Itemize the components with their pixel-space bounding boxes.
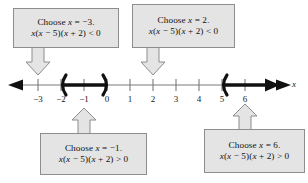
tick-label-3: 3 bbox=[168, 94, 184, 104]
tick-label-0: 0 bbox=[99, 94, 115, 104]
callout-choose-line: Choose x = 2. bbox=[158, 15, 210, 27]
sign-chart-figure: −3 −2 −1 0 1 2 3 4 5 6 x Choose x = −3. … bbox=[0, 0, 308, 183]
callout-test-line: x(x − 5)(x + 2) > 0 bbox=[220, 151, 290, 163]
tick-label-neg1: −1 bbox=[76, 94, 92, 104]
interval-5-to-infinity bbox=[223, 75, 280, 95]
tick-label-neg3: −3 bbox=[30, 94, 46, 104]
tick-label-6: 6 bbox=[237, 94, 253, 104]
axis-arrow-left bbox=[8, 80, 23, 91]
callout-test-line: x(x − 5)(x + 2) < 0 bbox=[31, 28, 101, 40]
tick-label-5: 5 bbox=[214, 94, 230, 104]
axis-variable-label: x bbox=[292, 79, 296, 89]
callout-box-top-right: Choose x = 2. x(x − 5)(x + 2) < 0 bbox=[132, 4, 235, 48]
callout-test-line: x(x − 5)(x + 2) > 0 bbox=[59, 154, 129, 166]
tick-label-4: 4 bbox=[191, 94, 207, 104]
callout-box-bottom-left: Choose x = −1. x(x − 5)(x + 2) > 0 bbox=[40, 133, 147, 175]
callout-choose-line: Choose x = −3. bbox=[37, 17, 94, 29]
tick-label-1: 1 bbox=[122, 94, 138, 104]
interval-neg2-to-0 bbox=[62, 75, 107, 95]
callout-choose-line: Choose x = −1. bbox=[65, 143, 122, 155]
tick-label-neg2: −2 bbox=[53, 94, 69, 104]
callout-box-top-left: Choose x = −3. x(x − 5)(x + 2) < 0 bbox=[13, 8, 119, 48]
callout-choose-line: Choose x = 6. bbox=[229, 140, 281, 152]
tick-label-2: 2 bbox=[145, 94, 161, 104]
callout-box-bottom-right: Choose x = 6. x(x − 5)(x + 2) > 0 bbox=[204, 129, 305, 173]
callout-test-line: x(x − 5)(x + 2) < 0 bbox=[149, 26, 219, 38]
